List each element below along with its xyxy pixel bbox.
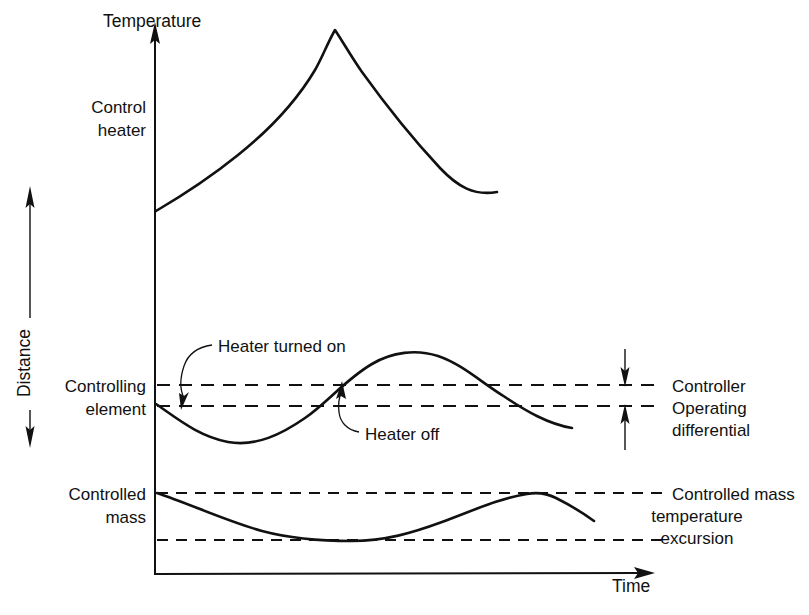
row-label-controlled-mass: Controlled mass	[69, 485, 147, 527]
axes-group	[150, 22, 655, 579]
control-system-temperature-diagram: Temperature Time Distance Control heater…	[0, 0, 809, 615]
controlled-mass-curve	[157, 493, 594, 541]
controlling-element-curve	[156, 352, 572, 443]
diagram-root: Temperature Time Distance Control heater…	[0, 0, 809, 615]
x-axis-line	[155, 573, 641, 574]
legend-controlled-mass-excursion-line3: excursion	[661, 529, 734, 548]
legend-operating-differential-line1: Operating	[672, 399, 747, 418]
x-axis-label: Time	[612, 576, 650, 596]
legend-controller-label: Controller	[672, 377, 746, 396]
heater-on-leader-line	[181, 345, 212, 398]
row-label-control-heater: Control heater	[91, 98, 146, 140]
controlled-mass-label-line2: mass	[105, 508, 146, 527]
legend-operating-differential: Operating differential	[672, 399, 750, 440]
controlling-element-label-line1: Controlling	[65, 377, 146, 396]
heater-off-leader-line	[339, 393, 359, 432]
row-label-controlling-element: Controlling element	[65, 377, 147, 419]
control-heater-label-line2: heater	[98, 121, 147, 140]
controlling-element-label-line2: element	[86, 400, 147, 419]
legend-controlled-mass-excursion-line1: Controlled mass	[672, 485, 795, 504]
operating-differential-dimension-group	[621, 349, 630, 450]
control-heater-label-line1: Control	[91, 98, 146, 117]
legend-controlled-mass-excursion-line2: temperature	[651, 507, 743, 526]
legend-controller: Controller	[672, 377, 746, 396]
distance-axis-group: Distance	[14, 186, 35, 448]
heater-on-leader-arrowhead	[179, 392, 189, 410]
annotation-heater-off: Heater off	[336, 381, 440, 444]
legend-operating-differential-line2: differential	[672, 421, 750, 440]
legend-controlled-mass-excursion: Controlled mass temperature excursion	[651, 485, 795, 548]
y-axis-label: Temperature	[103, 11, 201, 31]
controlled-mass-label-line1: Controlled	[69, 485, 147, 504]
heater-off-label: Heater off	[365, 425, 440, 444]
distance-axis-label: Distance	[14, 329, 34, 397]
annotation-heater-turned-on: Heater turned on	[179, 337, 346, 410]
heater-on-label: Heater turned on	[218, 337, 346, 356]
control-heater-curve	[156, 30, 497, 211]
